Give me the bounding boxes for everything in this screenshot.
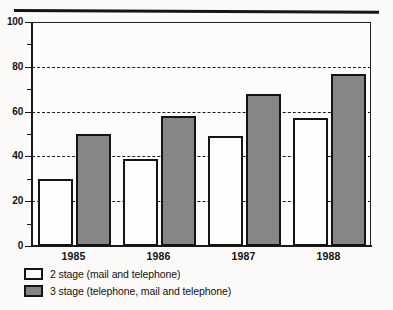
x-axis-label-1987: 1987 (201, 250, 286, 262)
y-axis-label-20: 20 (0, 195, 23, 206)
bar-1985-series2 (76, 134, 111, 246)
top-rule-divider (14, 9, 379, 14)
x-axis-label-1985: 1985 (31, 250, 116, 262)
y-tick-major-20 (25, 201, 32, 202)
y-axis-label-100: 100 (0, 16, 23, 27)
y-tick-major-60 (25, 112, 32, 113)
legend-item-3-stage: 3 stage (telephone, mail and telephone) (24, 283, 231, 298)
y-tick-minor-30 (27, 179, 32, 180)
y-tick-minor-70 (27, 89, 32, 90)
y-axis-label-0: 0 (0, 240, 23, 251)
y-tick-minor-50 (27, 134, 32, 135)
x-axis-label-1986: 1986 (116, 250, 201, 262)
legend-label-3-stage: 3 stage (telephone, mail and telephone) (50, 285, 231, 297)
bar-1986-series1 (123, 159, 158, 246)
chart-legend: 2 stage (mail and telephone) 3 stage (te… (24, 266, 231, 300)
y-tick-major-40 (25, 156, 32, 157)
y-axis-label-40: 40 (0, 150, 23, 161)
legend-swatch-white-icon (24, 268, 43, 280)
legend-item-2-stage: 2 stage (mail and telephone) (24, 266, 231, 281)
gridline-80 (32, 67, 371, 68)
y-tick-major-100 (25, 22, 32, 23)
y-tick-major-80 (25, 67, 32, 68)
bar-1985-series1 (38, 179, 73, 246)
bar-chart-figure: 020406080100 1985198619871988 2 stage (m… (0, 0, 393, 310)
legend-label-2-stage: 2 stage (mail and telephone) (50, 268, 180, 280)
x-axis-label-1988: 1988 (286, 250, 371, 262)
legend-swatch-gray-icon (24, 285, 43, 297)
bar-1988-series1 (293, 118, 328, 246)
bar-1987-series2 (246, 94, 281, 246)
y-tick-minor-90 (27, 44, 32, 45)
y-axis-label-60: 60 (0, 106, 23, 117)
y-tick-major-0 (25, 246, 32, 247)
y-tick-minor-10 (27, 224, 32, 225)
bar-1986-series2 (161, 116, 196, 246)
gridline-60 (32, 112, 371, 113)
bar-1987-series1 (208, 136, 243, 246)
y-axis-label-80: 80 (0, 61, 23, 72)
bar-1988-series2 (331, 74, 366, 246)
